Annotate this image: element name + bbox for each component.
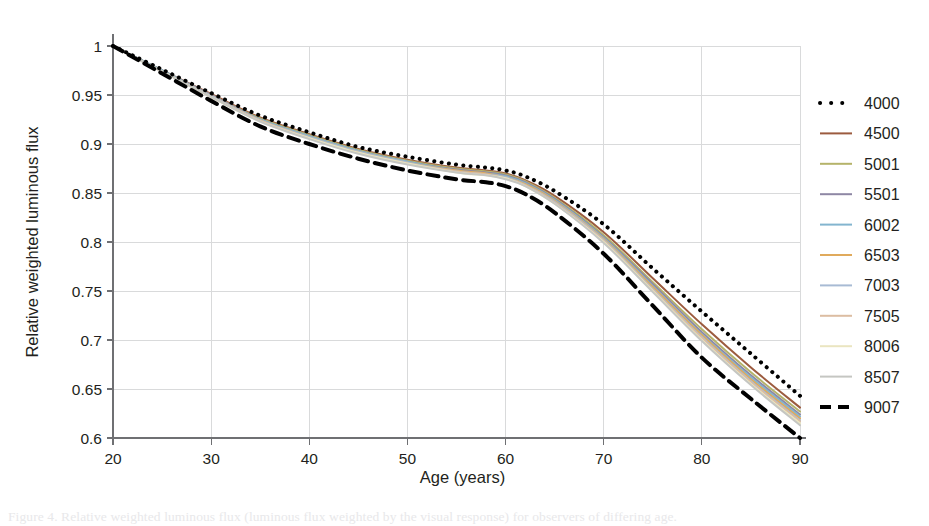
legend-label-6503: 6503 (864, 247, 900, 264)
legend-label-7505: 7505 (864, 308, 900, 325)
legend-label-8507: 8507 (864, 369, 900, 386)
x-tick-label-1: 30 (203, 450, 221, 467)
legend-item-5001[interactable]: 5001 (820, 156, 900, 173)
legend-item-6503[interactable]: 6503 (820, 247, 900, 264)
legend-label-6002: 6002 (864, 217, 900, 234)
x-tick-label-7: 90 (791, 450, 809, 467)
y-tick-label-5: 0.85 (72, 185, 102, 202)
legend-label-7003: 7003 (864, 277, 900, 294)
y-tick-label-7: 0.95 (72, 87, 102, 104)
legend-item-8006[interactable]: 8006 (820, 338, 900, 355)
legend-label-8006: 8006 (864, 338, 900, 355)
x-tick-label-4: 60 (497, 450, 515, 467)
y-tick-label-4: 0.8 (80, 234, 102, 251)
figure-container: 0.60.650.70.750.80.850.90.95120304050607… (0, 0, 929, 526)
x-tick-label-3: 50 (399, 450, 417, 467)
x-tick-label-6: 80 (693, 450, 711, 467)
legend-label-5001: 5001 (864, 156, 900, 173)
figure-caption: Figure 4. Relative weighted luminous flu… (0, 508, 929, 526)
legend-item-7505[interactable]: 7505 (820, 308, 900, 325)
legend-label-4000: 4000 (864, 95, 900, 112)
y-axis-title: Relative weighted luminous flux (23, 126, 41, 358)
y-tick-label-3: 0.75 (72, 283, 102, 300)
legend-item-4500[interactable]: 4500 (820, 125, 900, 142)
y-tick-label-8: 1 (93, 38, 102, 55)
x-tick-label-2: 40 (301, 450, 319, 467)
legend-label-9007: 9007 (864, 399, 900, 416)
legend-item-6002[interactable]: 6002 (820, 217, 900, 234)
y-tick-label-0: 0.6 (80, 430, 102, 447)
x-tick-label-0: 20 (104, 450, 122, 467)
legend-item-8507[interactable]: 8507 (820, 369, 900, 386)
legend-item-5501[interactable]: 5501 (820, 186, 900, 203)
legend-label-5501: 5501 (864, 186, 900, 203)
legend-label-4500: 4500 (864, 125, 900, 142)
legend-item-4000[interactable]: 4000 (820, 95, 900, 112)
x-tick-label-5: 70 (595, 450, 613, 467)
y-tick-label-1: 0.65 (72, 381, 102, 398)
legend-item-7003[interactable]: 7003 (820, 277, 900, 294)
y-tick-label-2: 0.7 (80, 332, 102, 349)
figure-caption-strip: Figure 4. Relative weighted luminous flu… (0, 508, 929, 526)
y-tick-label-6: 0.9 (80, 136, 102, 153)
x-axis-title: Age (years) (420, 468, 505, 486)
luminous-flux-line-chart: 0.60.650.70.750.80.850.90.95120304050607… (0, 0, 929, 526)
legend-item-9007[interactable]: 9007 (820, 399, 900, 416)
